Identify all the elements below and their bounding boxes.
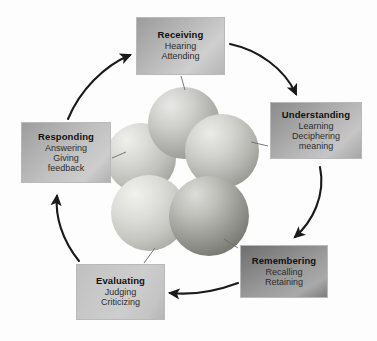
node-line-remembering-1: Recalling [265, 267, 302, 277]
node-title-remembering: Remembering [252, 256, 316, 267]
node-line-understanding-1: Learning [298, 121, 333, 131]
arrow-receiving-to-understanding [230, 44, 296, 94]
node-box-understanding[interactable]: Understanding Learning Deciphering meani… [270, 102, 362, 159]
arrow-evaluating-to-responding [57, 196, 79, 261]
node-line-understanding-2: Deciphering [292, 131, 340, 141]
node-line-evaluating-2: Criticizing [101, 297, 140, 307]
node-line-responding-1: Answering [45, 143, 87, 153]
leader-line-responding [112, 152, 126, 158]
node-title-understanding: Understanding [282, 110, 350, 121]
sphere-bottom-right [169, 176, 249, 256]
node-line-understanding-3: meaning [299, 141, 334, 151]
node-box-responding[interactable]: Responding Answering Giving feedback [21, 122, 111, 183]
node-title-responding: Responding [38, 132, 94, 143]
leader-line-evaluating [144, 248, 155, 263]
sphere-right [185, 114, 259, 188]
node-line-receiving-1: Hearing [165, 41, 197, 51]
sphere-top [148, 87, 220, 159]
node-line-evaluating-1: Judging [105, 287, 137, 297]
arrow-remembering-to-evaluating [170, 283, 238, 294]
leader-line-receiving [181, 76, 185, 90]
node-box-receiving[interactable]: Receiving Hearing Attending [136, 17, 225, 75]
node-title-receiving: Receiving [158, 30, 204, 41]
node-line-remembering-2: Retaining [265, 277, 303, 287]
arrow-understanding-to-remembering [295, 167, 321, 237]
node-line-responding-3: feedback [48, 163, 85, 173]
sphere-bottom-left [111, 175, 187, 251]
node-line-responding-2: Giving [53, 153, 79, 163]
node-box-remembering[interactable]: Remembering Recalling Retaining [240, 245, 328, 298]
node-box-evaluating[interactable]: Evaluating Judging Criticizing [76, 264, 165, 320]
node-title-evaluating: Evaluating [96, 276, 145, 287]
sphere-cluster [106, 87, 259, 256]
diagram-canvas: Receiving Hearing Attending Understandin… [0, 0, 377, 341]
leader-lines [112, 76, 268, 263]
arrow-responding-to-receiving [68, 55, 130, 119]
leader-line-understanding [251, 142, 268, 146]
leader-line-remembering [224, 239, 238, 248]
sphere-left [106, 123, 176, 193]
node-line-receiving-2: Attending [161, 51, 199, 61]
